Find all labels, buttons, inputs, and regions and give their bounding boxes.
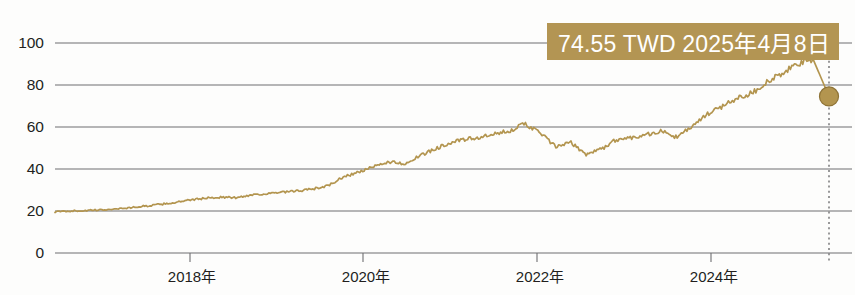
y-tick-label-20: 20 bbox=[27, 202, 45, 219]
x-axis-ticks bbox=[190, 253, 711, 262]
price-line-series bbox=[55, 59, 829, 213]
y-tick-label-40: 40 bbox=[27, 160, 45, 177]
gridlines-group bbox=[55, 43, 852, 253]
y-axis-labels: 100 80 60 40 20 0 bbox=[18, 34, 44, 261]
x-axis-labels: 2018年 2020年 2022年 2024年 bbox=[168, 268, 738, 285]
y-tick-label-100: 100 bbox=[18, 34, 44, 51]
stock-price-chart: 100 80 60 40 20 0 2018年 2020年 2022年 2024… bbox=[0, 0, 855, 295]
callout-label: 74.55 TWD 2025年4月8日 bbox=[558, 25, 830, 59]
x-tick-label-2018: 2018年 bbox=[168, 268, 216, 285]
y-tick-label-80: 80 bbox=[27, 76, 45, 93]
x-tick-label-2020: 2020年 bbox=[342, 268, 390, 285]
price-callout-badge: 74.55 TWD 2025年4月8日 bbox=[547, 23, 839, 60]
y-tick-label-60: 60 bbox=[27, 118, 45, 135]
y-tick-label-0: 0 bbox=[35, 244, 44, 261]
x-tick-label-2024: 2024年 bbox=[690, 268, 738, 285]
endpoint-marker-dot[interactable] bbox=[820, 87, 839, 106]
x-tick-label-2022: 2022年 bbox=[516, 268, 564, 285]
